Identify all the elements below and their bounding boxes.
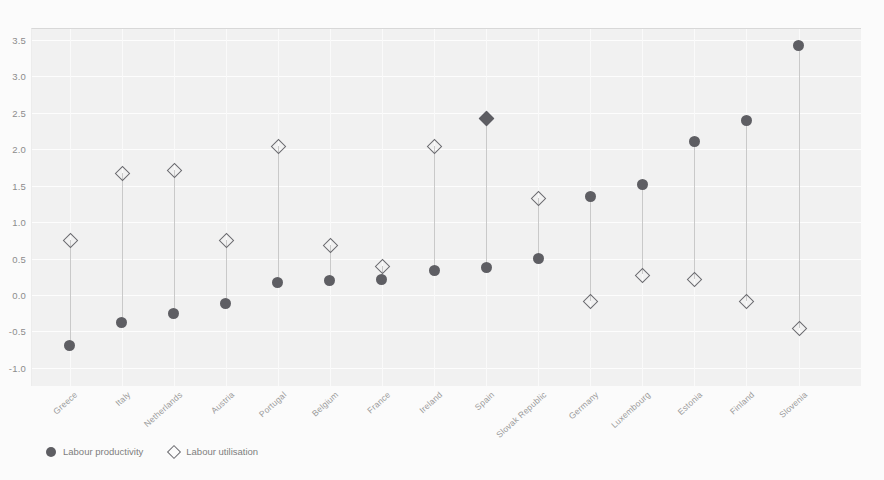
- labour-productivity-marker[interactable]: [585, 191, 596, 202]
- connector-stem: [642, 184, 643, 274]
- gridline: [32, 295, 861, 296]
- y-axis-tick-label: 3.5: [12, 34, 26, 45]
- labour-productivity-marker[interactable]: [741, 115, 752, 126]
- labour-utilisation-marker[interactable]: [323, 238, 339, 254]
- filled-circle-icon: [46, 447, 56, 457]
- gridline: [32, 331, 861, 332]
- labour-productivity-marker[interactable]: [429, 265, 440, 276]
- legend-item[interactable]: Labour utilisation: [169, 446, 258, 457]
- y-axis-tick-label: 0.5: [12, 253, 26, 264]
- plot-area: 3.53.02.52.01.51.00.50.0-0.5-1.0: [31, 28, 861, 386]
- labour-productivity-marker[interactable]: [637, 179, 648, 190]
- labour-utilisation-marker[interactable]: [531, 191, 547, 207]
- connector-stem: [70, 240, 71, 346]
- vertical-gridline: [330, 29, 331, 386]
- labour-productivity-marker[interactable]: [793, 40, 804, 51]
- y-axis-tick-label: 3.0: [12, 71, 26, 82]
- labour-utilisation-marker[interactable]: [62, 233, 78, 249]
- connector-stem: [694, 142, 695, 279]
- labour-utilisation-marker[interactable]: [375, 259, 391, 275]
- connector-stem: [278, 146, 279, 283]
- labour-utilisation-marker[interactable]: [687, 272, 703, 288]
- labour-utilisation-marker[interactable]: [114, 165, 130, 181]
- connector-stem: [122, 173, 123, 323]
- y-axis-tick-label: 2.5: [12, 107, 26, 118]
- connector-stem: [174, 170, 175, 314]
- labour-productivity-marker[interactable]: [272, 277, 283, 288]
- connector-stem: [486, 118, 487, 267]
- y-axis-tick-label: -1.0: [9, 362, 26, 373]
- connector-stem: [226, 240, 227, 303]
- chart-legend: Labour productivityLabour utilisation: [46, 446, 258, 457]
- vertical-gridline: [382, 29, 383, 386]
- gridline: [32, 186, 861, 187]
- labour-utilisation-marker[interactable]: [271, 138, 287, 154]
- labour-utilisation-marker[interactable]: [635, 267, 651, 283]
- labour-productivity-marker[interactable]: [168, 308, 179, 319]
- y-axis-tick-label: 2.0: [12, 144, 26, 155]
- gridline: [32, 259, 861, 260]
- y-axis-tick-label: -0.5: [9, 326, 26, 337]
- connector-stem: [590, 197, 591, 301]
- connector-stem: [799, 45, 800, 328]
- vertical-gridline: [226, 29, 227, 386]
- labour-productivity-marker[interactable]: [481, 262, 492, 273]
- labour-productivity-marker[interactable]: [689, 136, 700, 147]
- labour-productivity-marker[interactable]: [376, 274, 387, 285]
- gridline: [32, 222, 861, 223]
- labour-utilisation-marker[interactable]: [166, 162, 182, 178]
- y-axis-tick-label: 0.0: [12, 289, 26, 300]
- y-axis-tick-label: 1.0: [12, 217, 26, 228]
- labour-productivity-marker[interactable]: [533, 253, 544, 264]
- labour-productivity-marker[interactable]: [116, 317, 127, 328]
- gridline: [32, 76, 861, 77]
- y-axis-tick-label: 1.5: [12, 180, 26, 191]
- chart-page: 3.53.02.52.01.51.00.50.0-0.5-1.0 GreeceI…: [0, 0, 884, 480]
- gridline: [32, 368, 861, 369]
- gridline: [32, 149, 861, 150]
- connector-stem: [538, 198, 539, 259]
- gridline: [32, 113, 861, 114]
- labour-productivity-marker[interactable]: [64, 340, 75, 351]
- gridline: [32, 40, 861, 41]
- open-diamond-icon: [167, 444, 181, 458]
- legend-label: Labour productivity: [63, 446, 143, 457]
- legend-item[interactable]: Labour productivity: [46, 446, 143, 457]
- labour-productivity-marker[interactable]: [324, 275, 335, 286]
- labour-utilisation-marker[interactable]: [218, 233, 234, 249]
- legend-label: Labour utilisation: [186, 446, 258, 457]
- labour-utilisation-marker[interactable]: [791, 320, 807, 336]
- connector-stem: [434, 146, 435, 271]
- labour-utilisation-marker[interactable]: [427, 138, 443, 154]
- labour-productivity-marker[interactable]: [220, 298, 231, 309]
- connector-stem: [746, 120, 747, 301]
